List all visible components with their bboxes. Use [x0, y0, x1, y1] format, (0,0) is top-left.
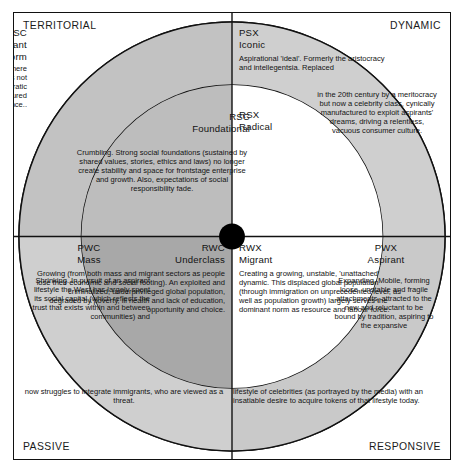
quadrant-top-right: PSXIconic Aspirational 'ideal'. Formerly…	[233, 13, 451, 236]
region-rsx-title: RSXRadical	[239, 109, 329, 133]
region-rwc[interactable]: RWCUnderclass Growing (from both mass an…	[35, 242, 225, 314]
region-psx-title: PSXIconic	[239, 27, 399, 51]
quadrant-bottom-left: PWCMass Shrinking. In pursuit of an aspi…	[14, 236, 233, 458]
region-pwx[interactable]: PWXAspirant Expanding. Mobile, forming l…	[334, 242, 438, 266]
region-rsx-name: Radical	[239, 121, 272, 132]
region-rsx-code: RSX	[239, 109, 259, 120]
axis-label-responsive: RESPONSIVE	[369, 441, 441, 452]
region-pwx-body: Expanding. Mobile, forming loose, unstab…	[334, 276, 434, 330]
quadrant-bottom-right: RWXMigrant Creating a growing, unstable,…	[233, 236, 451, 458]
region-rwx-body-tail: lifestyle of celebrities (as portrayed b…	[233, 387, 445, 405]
region-rsc-body: Crumbling. Strong social foundations (su…	[74, 148, 250, 193]
region-psx-name: Iconic	[239, 39, 265, 50]
region-pwx-name: Aspirant	[368, 254, 405, 265]
region-rwc-title: RWCUnderclass	[35, 242, 225, 266]
region-rsx[interactable]: RSXRadical	[239, 109, 329, 133]
region-rwx-continuation: lifestyle of celebrities (as portrayed b…	[233, 386, 445, 405]
axis-label-passive: PASSIVE	[23, 441, 70, 452]
diagram-root: TERRITORIAL DYNAMIC PASSIVE RESPONSIVE P…	[0, 0, 463, 472]
region-rwc-name: Underclass	[175, 254, 225, 265]
region-psx-continuation: in the 20th century by a meritocracy but…	[317, 89, 437, 135]
region-rwx-name: Migrant	[239, 254, 272, 265]
region-rwx-code: RWX	[239, 242, 262, 253]
region-psc-title: PSCDominant norm	[13, 27, 27, 63]
axis-label-territorial: TERRITORIAL	[23, 20, 96, 31]
region-pwx-code: PWX	[375, 242, 397, 253]
quadrant-top-left: PSCDominant norm Defining criteria of su…	[14, 13, 233, 236]
region-rwc-body-tail: now struggles to integrate immigrants, w…	[14, 387, 234, 405]
region-psx-code: PSX	[239, 27, 259, 38]
matrix-frame: TERRITORIAL DYNAMIC PASSIVE RESPONSIVE P…	[13, 12, 451, 460]
region-psx-body-tail: in the 20th century by a meritocracy but…	[317, 90, 437, 135]
region-pwx-title: PWXAspirant	[334, 242, 438, 266]
region-psx-body: Aspirational 'ideal'. Formerly the arist…	[239, 54, 399, 72]
region-psc-name: Dominant norm	[13, 39, 27, 62]
region-rwc-code: RWC	[202, 242, 225, 253]
axis-label-dynamic: DYNAMIC	[390, 20, 441, 31]
region-psx[interactable]: PSXIconic Aspirational 'ideal'. Formerly…	[239, 27, 399, 72]
region-psc-body: Defining criteria of success and control…	[13, 64, 27, 109]
region-rwc-continuation: now struggles to integrate immigrants, w…	[14, 386, 234, 405]
region-rwc-body: Growing (from both mass and migrant sect…	[35, 269, 225, 314]
